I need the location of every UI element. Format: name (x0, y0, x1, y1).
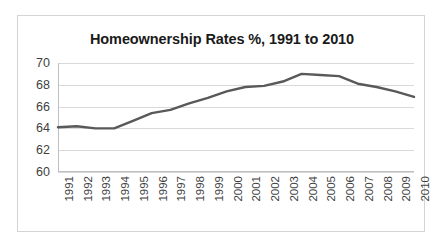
series-homeownership-rate (58, 74, 414, 128)
y-tick-label-66: 66 (36, 100, 50, 114)
y-axis-labels: 606264666870 (18, 63, 54, 172)
y-tick-label-68: 68 (36, 78, 50, 92)
x-tick-label-1991: 1991 (63, 176, 75, 202)
x-tick-label-2006: 2006 (344, 176, 356, 202)
x-tick-label-1994: 1994 (119, 176, 131, 202)
x-tick-label-2008: 2008 (382, 176, 394, 202)
x-tick-label-2009: 2009 (400, 176, 412, 202)
chart-container: Homeownership Rates %, 1991 to 2010 6062… (17, 15, 425, 232)
x-tick-label-1992: 1992 (82, 176, 94, 202)
x-tick-label-2010: 2010 (419, 176, 431, 202)
x-tick-label-2005: 2005 (325, 176, 337, 202)
x-tick-label-1997: 1997 (175, 176, 187, 202)
plot-area (58, 63, 414, 172)
x-tick-label-1996: 1996 (157, 176, 169, 202)
x-tick-label-2004: 2004 (307, 176, 319, 202)
x-tick-label-2000: 2000 (232, 176, 244, 202)
x-tick-label-1993: 1993 (100, 176, 112, 202)
x-tick-label-2001: 2001 (250, 176, 262, 202)
x-tick-label-2007: 2007 (363, 176, 375, 202)
x-tick-label-1998: 1998 (194, 176, 206, 202)
x-tick-label-1999: 1999 (213, 176, 225, 202)
x-tick-label-2003: 2003 (288, 176, 300, 202)
chart-title: Homeownership Rates %, 1991 to 2010 (18, 31, 426, 47)
data-series-line (58, 63, 414, 172)
x-axis-labels: 1991199219931994199519961997199819992000… (58, 174, 414, 232)
y-tick-label-60: 60 (36, 165, 50, 179)
y-tick-label-70: 70 (36, 56, 50, 70)
y-tick-label-62: 62 (36, 143, 50, 157)
x-tick-label-1995: 1995 (138, 176, 150, 202)
y-tick-label-64: 64 (36, 121, 50, 135)
gridline-60 (58, 172, 414, 173)
x-tick-label-2002: 2002 (269, 176, 281, 202)
